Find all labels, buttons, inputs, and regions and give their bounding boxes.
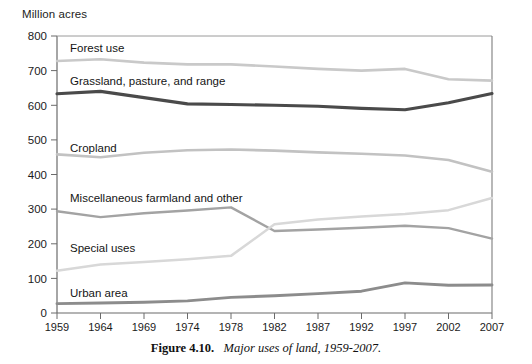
xtick-label: 1992 [349, 321, 373, 333]
y-axis-tick-labels: 0 100 200 300 400 500 600 700 800 [28, 30, 47, 319]
line-chart: 0 100 200 300 400 500 600 700 800 1959 [0, 0, 532, 340]
figure-number: Figure 4.10. [151, 341, 214, 355]
xtick-label: 1987 [306, 321, 330, 333]
xtick-label: 2007 [480, 321, 504, 333]
series-label-forest: Forest use [70, 42, 124, 54]
series-label-special: Special uses [70, 242, 135, 254]
xtick-label: 1982 [262, 321, 286, 333]
series-line-cropland [57, 150, 492, 172]
xtick-label: 1959 [45, 321, 69, 333]
ytick-label: 0 [41, 307, 47, 319]
xtick-label: 1997 [393, 321, 417, 333]
ytick-label: 800 [28, 30, 47, 42]
xtick-label: 1978 [219, 321, 243, 333]
figure-caption: Figure 4.10. Major uses of land, 1959-20… [0, 341, 532, 356]
ytick-label: 700 [28, 65, 47, 77]
ytick-label: 300 [28, 203, 47, 215]
ytick-label: 600 [28, 100, 47, 112]
xtick-label: 1969 [132, 321, 156, 333]
series-line-special [57, 198, 492, 271]
ytick-label: 400 [28, 169, 47, 181]
x-axis-ticks [57, 313, 492, 319]
data-series-group [57, 59, 492, 303]
ytick-label: 200 [28, 238, 47, 250]
x-axis-tick-labels: 1959 1964 1969 1974 1978 1982 1987 1992 … [45, 321, 504, 333]
xtick-label: 1964 [88, 321, 112, 333]
ytick-label: 100 [28, 273, 47, 285]
figure-container: Million acres 0 100 200 300 400 5 [0, 0, 532, 364]
xtick-label: 1974 [175, 321, 199, 333]
ytick-label: 500 [28, 134, 47, 146]
series-label-grassland: Grassland, pasture, and range [70, 75, 225, 87]
series-line-grassland [57, 91, 492, 109]
series-label-urban: Urban area [70, 287, 128, 299]
xtick-label: 2002 [436, 321, 460, 333]
series-label-cropland: Cropland [70, 142, 117, 154]
series-label-misc: Miscellaneous farmland and other [70, 192, 243, 204]
figure-title: Major uses of land, 1959-2007. [224, 341, 382, 355]
